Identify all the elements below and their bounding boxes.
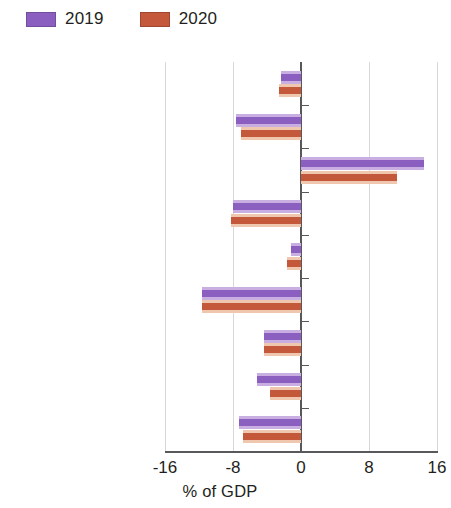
category-tick	[302, 408, 309, 409]
x-tick-label-0: 0	[271, 458, 331, 478]
bar-2020	[270, 387, 301, 400]
bar-core	[202, 290, 301, 297]
bar-core	[231, 217, 301, 224]
x-tick-label--16: -16	[135, 458, 195, 478]
bar-core	[281, 74, 301, 81]
category-tick	[302, 365, 309, 366]
bar-2019	[281, 71, 301, 84]
category-tick	[302, 105, 309, 106]
gridline-16	[437, 62, 438, 451]
bar-2020	[241, 127, 301, 140]
bar-row	[165, 408, 437, 451]
bar-core	[202, 303, 301, 310]
bar-core	[291, 246, 301, 253]
x-tick-label-16: 16	[407, 458, 451, 478]
bar-row	[165, 148, 437, 191]
bar-core	[287, 260, 301, 267]
bar-core	[301, 174, 397, 181]
bar-core	[264, 346, 301, 353]
bar-core	[279, 87, 301, 94]
bar-core	[239, 419, 301, 426]
bar-2019	[301, 157, 424, 170]
bar-2020	[231, 214, 301, 227]
bar-row	[165, 105, 437, 148]
x-tick-label-8: 8	[339, 458, 399, 478]
legend-label-2020: 2020	[179, 9, 218, 29]
x-axis-title: % of GDP	[0, 482, 440, 501]
x-tick-label--8: -8	[203, 458, 263, 478]
bar-row	[165, 235, 437, 278]
legend-entry-2019: 2019	[26, 9, 104, 29]
legend-entry-2020: 2020	[140, 9, 218, 29]
bar-2020	[202, 300, 301, 313]
bar-row	[165, 278, 437, 321]
bar-2019	[264, 330, 301, 343]
category-tick	[302, 148, 309, 149]
bar-2020	[264, 343, 301, 356]
bar-core	[243, 433, 301, 440]
chart-legend: 2019 2020	[26, 6, 217, 32]
bar-2019	[239, 416, 301, 429]
category-tick	[302, 235, 309, 236]
bar-2019	[291, 243, 301, 256]
category-tick	[302, 278, 309, 279]
bar-2019	[202, 287, 301, 300]
legend-swatch-2019	[26, 12, 56, 27]
x-axis-baseline	[165, 451, 438, 453]
bar-core	[233, 203, 301, 210]
bar-core	[257, 376, 301, 383]
bar-core	[264, 333, 301, 340]
bar-core	[301, 160, 424, 167]
bar-core	[236, 117, 301, 124]
category-tick	[302, 321, 309, 322]
bar-core	[241, 130, 301, 137]
bar-2020	[287, 257, 301, 270]
bar-row	[165, 365, 437, 408]
bar-2020	[301, 171, 397, 184]
bar-2019	[236, 114, 301, 127]
bar-core	[270, 390, 301, 397]
bar-row	[165, 321, 437, 364]
bar-2020	[279, 84, 301, 97]
legend-swatch-2020	[140, 12, 170, 27]
bar-2019	[257, 373, 301, 386]
bar-2020	[243, 430, 301, 443]
category-tick	[302, 192, 309, 193]
bar-row	[165, 62, 437, 105]
plot-area	[165, 62, 437, 451]
legend-label-2019: 2019	[65, 9, 104, 29]
bar-2019	[233, 200, 301, 213]
bar-row	[165, 192, 437, 235]
